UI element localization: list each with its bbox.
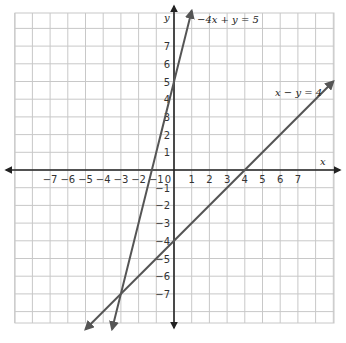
svg-text:−7: −7 <box>43 174 58 185</box>
svg-text:−4: −4 <box>155 236 170 247</box>
svg-text:−2: −2 <box>155 200 170 211</box>
y-axis-label: y <box>163 12 170 23</box>
svg-text:−4: −4 <box>96 174 111 185</box>
svg-text:−3: −3 <box>155 218 170 229</box>
svg-text:−6: −6 <box>155 271 170 282</box>
svg-text:6: 6 <box>277 174 283 185</box>
svg-text:−3: −3 <box>114 174 129 185</box>
svg-text:6: 6 <box>164 59 170 70</box>
svg-text:7: 7 <box>164 41 170 52</box>
svg-text:2: 2 <box>206 174 212 185</box>
svg-text:−2: −2 <box>131 174 146 185</box>
svg-text:−5: −5 <box>155 254 170 265</box>
svg-text:−7: −7 <box>155 289 170 300</box>
svg-text:−1: −1 <box>155 183 170 194</box>
svg-text:1: 1 <box>164 147 170 158</box>
x-axis-label: x <box>320 156 326 167</box>
svg-text:−5: −5 <box>78 174 93 185</box>
equation-label-1: −4x + y = 5 <box>197 14 259 25</box>
svg-text:−6: −6 <box>60 174 75 185</box>
svg-text:4: 4 <box>242 174 248 185</box>
svg-text:2: 2 <box>164 130 170 141</box>
svg-text:3: 3 <box>224 174 230 185</box>
axes <box>6 6 340 328</box>
equation-label-2: x − y = 4 <box>275 87 322 98</box>
svg-text:5: 5 <box>164 77 170 88</box>
coordinate-plane: −7−6−5−4−3−2−101234567−7−6−5−4−3−2−11234… <box>0 0 346 343</box>
svg-text:7: 7 <box>295 174 301 185</box>
svg-text:5: 5 <box>259 174 265 185</box>
svg-text:1: 1 <box>189 174 195 185</box>
